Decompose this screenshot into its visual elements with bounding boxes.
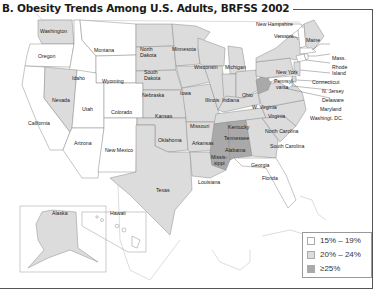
label-michigan: Michigan [225,64,246,70]
label-south-dakota-2: Dakota [144,75,161,81]
legend-swatch-mid [307,251,315,259]
label-alabama: Alabama [225,147,246,153]
label-washington: Washington [40,28,67,34]
label-rhode-island-2: Island [332,70,346,76]
label-virginia: Virginia [268,113,285,119]
label-massachusetts: Mass. [332,55,346,61]
label-delaware: Delaware [322,97,344,103]
label-new-york: New York [276,69,298,75]
state-alaska [28,210,98,268]
label-north-dakota-2: Dakota [140,52,157,58]
label-new-mexico: New Mexico [105,147,133,153]
legend-swatch-high [307,265,315,273]
label-kentucky: Kentucky [228,124,250,130]
label-new-hampshire: New Hampshire [256,21,293,27]
map-legend: 15% – 19% 20% – 24% ≥25% [302,232,372,278]
legend-item-high: ≥25% [303,262,371,275]
label-missouri: Missouri [190,123,209,129]
label-alaska: Alaska [52,210,68,216]
legend-label-low: 15% – 19% [320,236,361,245]
label-hawaii: Hawaii [110,210,126,216]
label-georgia: Georgia [251,162,270,168]
label-north-carolina: North Carolina [265,128,299,134]
label-pennsylvania-2: vania [276,84,289,90]
label-arkansas: Arkansas [192,140,214,146]
label-utah: Utah [82,106,93,112]
legend-item-mid: 20% – 24% [303,248,371,261]
label-dc: Washingt. DC. [310,115,343,121]
label-nebraska: Nebraska [142,92,164,98]
label-tennessee: Tennessee [224,135,249,141]
state-wisconsin [198,38,225,66]
state-hawaii [96,216,140,248]
label-minnesota: Minnesota [172,46,196,52]
label-vermont: Vermont [274,33,294,39]
legend-label-mid: 20% – 24% [320,250,361,259]
label-illinois: Illinois [205,97,220,103]
label-new-jersey: N. Jersey [322,88,344,94]
label-maryland: Maryland [320,106,341,112]
label-ohio: Ohio [242,92,253,98]
label-indiana: Indiana [222,97,239,103]
label-wisconsin: Wisconsin [194,64,218,70]
label-louisiana: Louisiana [198,179,220,185]
label-idaho: Idaho [72,75,85,81]
state-new-mexico [98,118,137,172]
label-oregon: Oregon [38,53,55,59]
label-mississippi-2: sippi [214,160,225,166]
state-maine [304,20,324,52]
label-florida: Florida [262,175,278,181]
label-wyoming: Wyoming [102,78,124,84]
label-connecticut: Connecticut [312,79,340,85]
label-oklahoma: Oklahoma [158,137,182,143]
legend-swatch-low [307,237,315,245]
map-title: B. Obesity Trends Among U.S. Adults, BRF… [2,2,293,14]
label-arizona: Arizona [74,140,92,146]
label-iowa: Iowa [180,90,191,96]
label-west-virginia: W. Virginia [252,104,277,110]
state-arizona [63,128,104,178]
label-montana: Montana [94,47,114,53]
label-south-carolina: South Carolina [270,143,304,149]
state-new-york [256,36,302,62]
legend-label-high: ≥25% [320,264,340,273]
label-maine: Maine [306,37,320,43]
label-nevada: Nevada [52,97,70,103]
state-north-dakota [136,24,174,47]
label-california: California [28,120,50,126]
label-texas: Texas [156,187,170,193]
label-kansas: Kansas [155,113,173,119]
legend-item-low: 15% – 19% [303,234,371,247]
label-colorado: Colorado [111,109,132,115]
